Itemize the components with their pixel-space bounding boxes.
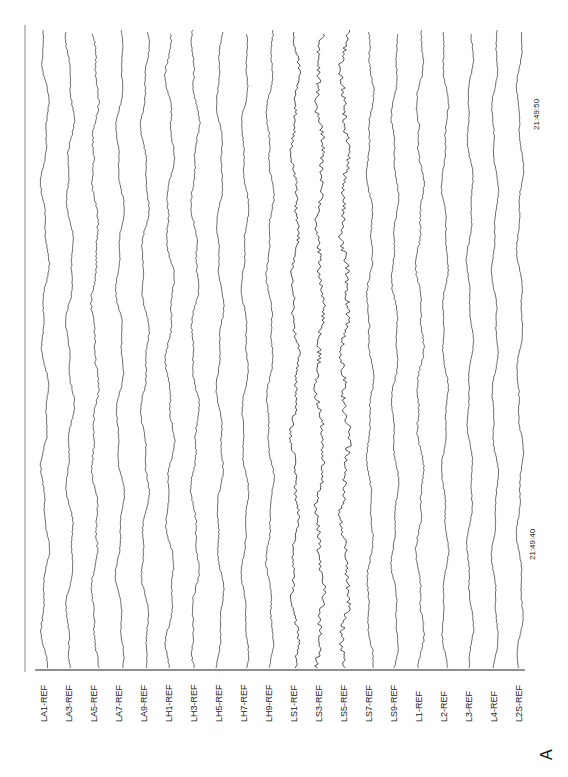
- eeg-traces: [40, 30, 524, 668]
- channel-label: LS3-REF: [314, 685, 324, 722]
- panel-letter: A: [538, 749, 556, 760]
- channel-label: LH1-REF: [164, 684, 174, 722]
- channel-label: LH9-REF: [264, 684, 274, 722]
- trace-l2s-ref: [516, 32, 524, 668]
- channel-label: LA7-REF: [114, 685, 124, 722]
- trace-lh1-ref: [165, 34, 176, 668]
- trace-la5-ref: [90, 34, 99, 668]
- trace-la9-ref: [140, 32, 149, 668]
- channel-label: LS1-REF: [289, 685, 299, 722]
- trace-l2-ref: [441, 32, 449, 668]
- channel-label: LS5-REF: [339, 685, 349, 722]
- channel-label: LA5-REF: [89, 685, 99, 722]
- trace-ls3-ref: [314, 34, 326, 668]
- channel-label: LH5-REF: [214, 684, 224, 722]
- channel-label: L2S-REF: [514, 685, 524, 722]
- channel-label: LA9-REF: [139, 685, 149, 722]
- trace-ls9-ref: [391, 34, 399, 668]
- eeg-chart: [0, 0, 568, 777]
- channel-label: LS7-REF: [364, 685, 374, 722]
- trace-la3-ref: [65, 32, 75, 668]
- channel-label: LH7-REF: [239, 684, 249, 722]
- time-tick-2: 21:49:50: [532, 99, 541, 130]
- trace-la7-ref: [115, 30, 125, 668]
- trace-lh7-ref: [241, 34, 249, 668]
- trace-la1-ref: [40, 30, 50, 668]
- channel-label: LH3-REF: [189, 684, 199, 722]
- channel-label: L3-REF: [464, 691, 474, 722]
- channel-label: LA3-REF: [64, 685, 74, 722]
- trace-lh3-ref: [190, 30, 200, 668]
- trace-ls1-ref: [289, 32, 300, 668]
- trace-lh5-ref: [216, 32, 224, 668]
- trace-ls5-ref: [338, 30, 351, 668]
- trace-l3-ref: [466, 34, 474, 668]
- time-tick-1: 21:49:40: [528, 529, 537, 560]
- trace-lh9-ref: [266, 30, 275, 668]
- trace-l4-ref: [491, 30, 499, 668]
- channel-label: L2-REF: [439, 691, 449, 722]
- channel-label: L4-REF: [489, 691, 499, 722]
- channel-label: LA1-REF: [39, 685, 49, 722]
- channel-label: L1-REF: [414, 691, 424, 722]
- channel-label: LS9-REF: [389, 685, 399, 722]
- trace-ls7-ref: [366, 32, 374, 668]
- trace-l1-ref: [415, 30, 425, 668]
